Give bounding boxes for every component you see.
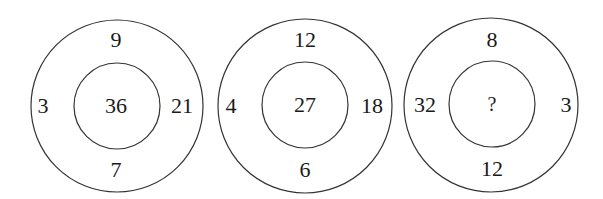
circle-1-right: 21 — [171, 95, 193, 117]
circle-3-bottom: 12 — [481, 158, 503, 180]
circle-1-top: 9 — [111, 29, 122, 51]
circle-2-top: 12 — [294, 29, 316, 51]
circle-2-bottom: 6 — [300, 159, 311, 181]
circle-3-center-unknown: ? — [488, 94, 497, 114]
circle-3-right: 3 — [561, 94, 572, 116]
circle-2-center: 27 — [294, 94, 316, 116]
circle-2-right: 18 — [361, 95, 383, 117]
circle-3-left: 32 — [414, 94, 436, 116]
circle-1-left: 3 — [38, 95, 49, 117]
circle-1-bottom: 7 — [111, 159, 122, 181]
circle-1-center: 36 — [105, 95, 127, 117]
circle-3-top: 8 — [487, 29, 498, 51]
circle-number-puzzle: 9 3 21 7 36 12 4 18 6 27 8 32 3 12 ? — [0, 0, 603, 199]
circle-2-left: 4 — [226, 95, 237, 117]
